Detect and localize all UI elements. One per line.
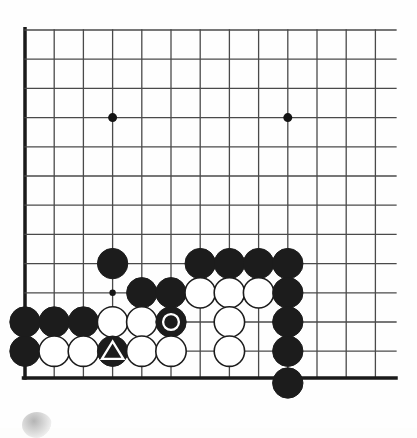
stone-disc-black xyxy=(273,307,303,337)
stone-black[interactable] xyxy=(273,278,303,308)
stone-disc-black xyxy=(39,307,69,337)
stone-black[interactable] xyxy=(39,307,69,337)
stone-white[interactable] xyxy=(214,336,244,366)
stone-disc-white xyxy=(185,278,215,308)
stone-black[interactable] xyxy=(243,248,273,278)
stone-disc-white xyxy=(39,336,69,366)
star-point xyxy=(108,113,117,122)
stone-disc-black xyxy=(68,307,98,337)
stone-disc-white xyxy=(214,278,244,308)
stone-disc-black xyxy=(273,278,303,308)
star-point xyxy=(109,290,115,296)
stone-disc-white xyxy=(214,307,244,337)
stone-disc-black xyxy=(156,307,186,337)
stone-disc-white xyxy=(68,336,98,366)
stone-white[interactable] xyxy=(97,307,127,337)
stone-white[interactable] xyxy=(185,278,215,308)
stone-black[interactable] xyxy=(273,307,303,337)
stone-white[interactable] xyxy=(214,307,244,337)
stone-disc-white xyxy=(156,336,186,366)
stone-black[interactable] xyxy=(273,248,303,278)
stone-disc-black xyxy=(185,248,215,278)
stone-black[interactable] xyxy=(185,248,215,278)
star-point xyxy=(283,113,292,122)
stone-disc-black xyxy=(273,368,303,398)
stone-disc-black xyxy=(214,248,244,278)
stone-disc-white xyxy=(127,307,157,337)
stone-white[interactable] xyxy=(39,336,69,366)
stone-black[interactable] xyxy=(10,307,40,337)
stone-disc-black xyxy=(156,278,186,308)
stone-disc-white xyxy=(243,278,273,308)
stone-black[interactable] xyxy=(273,368,303,398)
stone-black[interactable] xyxy=(68,307,98,337)
stone-disc-black xyxy=(127,278,157,308)
stone-white[interactable] xyxy=(68,336,98,366)
scan-smudge-artifact xyxy=(22,412,52,438)
stone-white[interactable] xyxy=(243,278,273,308)
stone-black[interactable] xyxy=(127,278,157,308)
stone-disc-black xyxy=(273,248,303,278)
stone-disc-black xyxy=(273,336,303,366)
stone-black-marked-triangle[interactable] xyxy=(97,336,127,366)
stone-black-marked-circle[interactable] xyxy=(156,307,186,337)
stone-disc-white xyxy=(214,336,244,366)
stone-white[interactable] xyxy=(127,336,157,366)
stone-black[interactable] xyxy=(273,336,303,366)
stone-black[interactable] xyxy=(97,248,127,278)
stone-white[interactable] xyxy=(214,278,244,308)
stone-black[interactable] xyxy=(214,248,244,278)
stone-disc-black xyxy=(10,307,40,337)
stone-disc-black xyxy=(10,336,40,366)
stone-disc-black xyxy=(243,248,273,278)
stone-black[interactable] xyxy=(156,278,186,308)
stone-black[interactable] xyxy=(10,336,40,366)
stone-white[interactable] xyxy=(127,307,157,337)
stone-white[interactable] xyxy=(156,336,186,366)
stone-disc-white xyxy=(127,336,157,366)
stone-disc-black xyxy=(97,248,127,278)
stone-disc-white xyxy=(97,307,127,337)
